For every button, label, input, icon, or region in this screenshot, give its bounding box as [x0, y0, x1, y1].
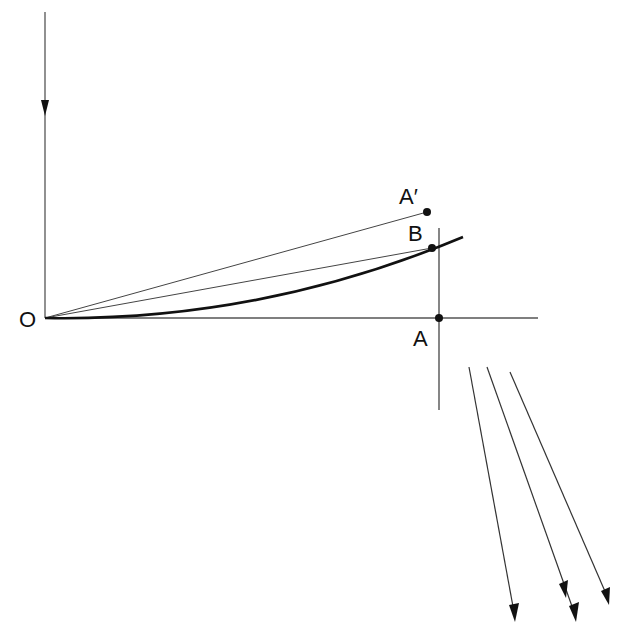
- arrowhead-icon: [559, 580, 568, 598]
- left-vertical-arrow: [41, 12, 49, 318]
- diagram-canvas: [0, 0, 623, 636]
- arrowhead-icon: [509, 603, 519, 622]
- arrow-2: [487, 367, 579, 622]
- arrowhead-icon: [569, 602, 579, 622]
- parallel-arrows: [469, 367, 610, 622]
- point-b: [428, 244, 436, 252]
- line-o-to-a-prime: [45, 212, 427, 318]
- label-point-a: A: [413, 328, 428, 350]
- label-origin: O: [19, 309, 36, 331]
- point-a-prime: [423, 208, 431, 216]
- point-a: [435, 314, 443, 322]
- down-arrowhead-icon: [41, 100, 49, 116]
- label-point-a-prime: A′: [399, 186, 418, 208]
- arrowhead-icon: [601, 587, 610, 605]
- trajectory-curve: [45, 237, 463, 318]
- label-point-b: B: [408, 223, 423, 245]
- arrow-3: [510, 372, 610, 605]
- arrow-1: [469, 367, 519, 622]
- line-o-to-b: [45, 248, 432, 318]
